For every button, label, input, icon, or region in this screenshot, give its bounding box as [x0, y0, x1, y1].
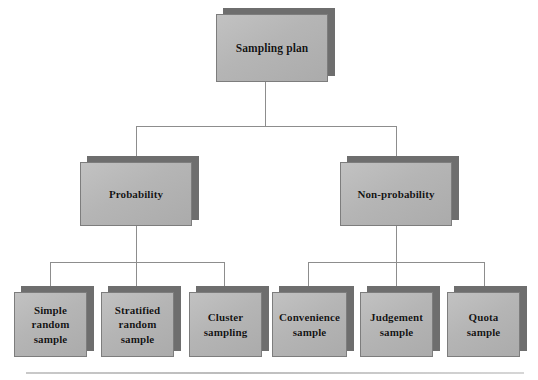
node-face: Clustersampling — [189, 292, 262, 357]
connector-probability-stem — [136, 226, 137, 262]
node-label-simple-random-sample: Simplerandomsample — [29, 303, 73, 345]
node-cluster-sampling[interactable]: Clustersampling — [189, 292, 262, 357]
node-label-judgement-sample: Judgementsample — [367, 310, 426, 338]
connector-nonprobability-stem — [396, 226, 397, 262]
node-face: Non-probability — [340, 162, 452, 226]
node-label-stratified-random-sample: Stratifiedrandomsample — [112, 303, 164, 345]
node-label-non-probability: Non-probability — [354, 187, 437, 201]
node-face: Quotasample — [447, 292, 520, 357]
node-stratified-random-sample[interactable]: Stratifiedrandomsample — [101, 292, 174, 357]
node-label-quota-sample: Quotasample — [464, 310, 504, 338]
node-face: Conveniencesample — [272, 292, 347, 357]
node-face: Simplerandomsample — [14, 292, 87, 357]
node-quota-sample[interactable]: Quotasample — [447, 292, 520, 357]
node-non-probability[interactable]: Non-probability — [340, 162, 452, 226]
node-probability[interactable]: Probability — [80, 162, 192, 226]
connector-probability-bus — [50, 262, 224, 263]
node-face: Judgementsample — [360, 292, 433, 357]
node-label-sampling-plan: Sampling plan — [233, 41, 312, 56]
connector-root-stem — [265, 82, 266, 126]
node-face: Probability — [80, 162, 192, 226]
node-simple-random-sample[interactable]: Simplerandomsample — [14, 292, 87, 357]
connector-root-bus — [136, 126, 396, 127]
node-face: Stratifiedrandomsample — [101, 292, 174, 357]
sampling-plan-diagram: Sampling plan Probability Non-probabilit… — [0, 0, 538, 380]
node-label-convenience-sample: Conveniencesample — [276, 310, 343, 338]
footer-divider — [26, 372, 524, 374]
node-face: Sampling plan — [216, 14, 328, 82]
node-sampling-plan[interactable]: Sampling plan — [216, 14, 328, 82]
node-convenience-sample[interactable]: Conveniencesample — [272, 292, 347, 357]
node-label-probability: Probability — [106, 187, 166, 201]
node-label-cluster-sampling: Clustersampling — [201, 310, 251, 338]
node-judgement-sample[interactable]: Judgementsample — [360, 292, 433, 357]
